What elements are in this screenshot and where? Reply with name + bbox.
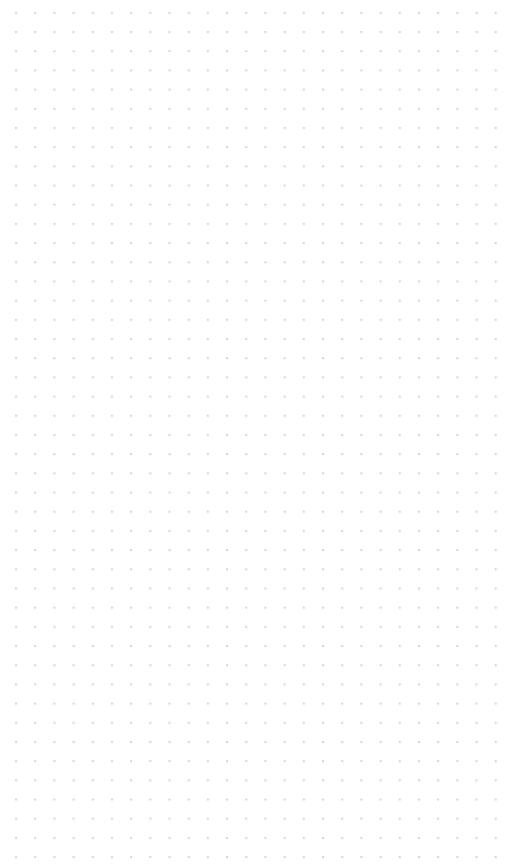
dot-grid-background [0,0,506,864]
canvas-root[interactable]: Blank canvas [0,0,506,864]
